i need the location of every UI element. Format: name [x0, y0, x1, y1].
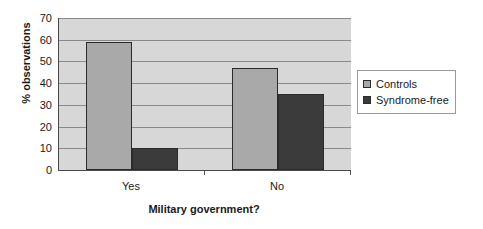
gridline: [59, 18, 351, 19]
y-axis-tick-label: 10: [24, 143, 52, 154]
x-axis-tick-label: No: [237, 180, 317, 192]
x-axis-title: Military government?: [58, 203, 350, 215]
legend-item-label: Controls: [376, 78, 417, 90]
x-axis-tick-mark: [350, 171, 351, 175]
bar-controls-no: [232, 68, 278, 170]
legend-item: Syndrome-free: [363, 92, 449, 108]
y-axis-tick-label: 70: [24, 13, 52, 24]
legend-swatch-icon: [363, 96, 371, 104]
y-axis-tick-labels: 010203040506070: [24, 12, 52, 176]
bar-syndrome-free-no: [278, 94, 324, 170]
legend-swatch-icon: [363, 80, 371, 88]
y-axis-tick-label: 40: [24, 78, 52, 89]
x-axis-tick-mark: [204, 171, 205, 175]
x-axis-tick-label: Yes: [91, 180, 171, 192]
bar-syndrome-free-yes: [132, 148, 178, 170]
y-axis-tick-label: 30: [24, 99, 52, 110]
y-axis-tick-label: 60: [24, 34, 52, 45]
y-axis-tick-label: 20: [24, 121, 52, 132]
bar-chart-figure: % observations 010203040506070 Military …: [0, 0, 483, 229]
legend: ControlsSyndrome-free: [357, 70, 456, 114]
gridline: [59, 40, 351, 41]
legend-item-label: Syndrome-free: [376, 94, 449, 106]
legend-item: Controls: [363, 76, 449, 92]
bar-controls-yes: [86, 42, 132, 170]
y-axis-tick-label: 0: [24, 165, 52, 176]
plot-area: [58, 18, 351, 171]
y-axis-tick-label: 50: [24, 56, 52, 67]
